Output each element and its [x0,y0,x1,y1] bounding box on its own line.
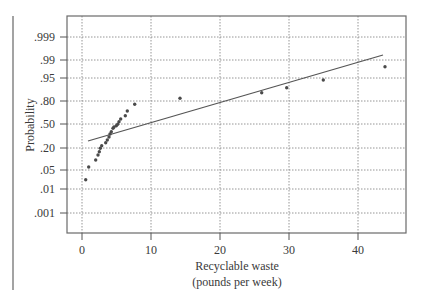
probability-plot: .999.99.95.80.50.20.05.01.001 010203040 … [0,0,423,301]
data-point [107,135,110,138]
y-tick-label: .001 [34,206,55,220]
data-point [383,65,386,68]
x-tick-label: 20 [214,243,226,257]
y-tick-label: .20 [40,141,55,155]
data-point [322,78,325,81]
data-point [119,117,122,120]
data-point [110,130,113,133]
y-tick-label: .01 [40,182,55,196]
y-tick-label: .99 [40,53,55,67]
y-tick-label: .50 [40,117,55,131]
reference-line [88,55,383,141]
x-axis: 010203040 [79,233,364,257]
data-point [98,150,101,153]
y-tick-label: .999 [34,30,55,44]
data-point [133,103,136,106]
x-axis-title: Recyclable waste [195,259,279,273]
x-tick-label: 10 [145,243,157,257]
x-tick-label: 0 [79,243,85,257]
data-point [96,153,99,156]
data-point [178,97,181,100]
y-tick-label: .05 [40,163,55,177]
data-point [260,91,263,94]
normal-fit-line [88,55,383,141]
data-point [87,165,90,168]
y-axis-title: Probability [23,98,37,151]
data-point [124,114,127,117]
data-points [84,65,387,181]
x-axis-subtitle: (pounds per week) [192,275,281,289]
y-tick-label: .80 [40,94,55,108]
x-tick-label: 30 [283,243,295,257]
data-point [126,109,129,112]
data-point [106,138,109,141]
data-point [84,178,87,181]
y-tick-label: .95 [40,71,55,85]
x-tick-label: 40 [352,243,364,257]
data-point [100,144,103,147]
y-axis: .999.99.95.80.50.20.05.01.001 [34,30,67,220]
data-point [285,86,288,89]
data-point [94,158,97,161]
